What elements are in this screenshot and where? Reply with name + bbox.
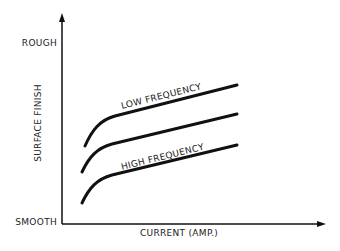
surface-finish-diagram: ROUGH SMOOTH SURFACE FINISH CURRENT (AMP… — [0, 0, 340, 251]
y-axis-arrow-icon — [59, 13, 65, 22]
y-label-smooth: SMOOTH — [15, 217, 57, 227]
x-axis-title: CURRENT (AMP.) — [140, 228, 218, 238]
y-axis-title: SURFACE FINISH — [33, 84, 43, 162]
x-axis-arrow-icon — [317, 221, 326, 227]
y-label-rough: ROUGH — [22, 38, 57, 48]
